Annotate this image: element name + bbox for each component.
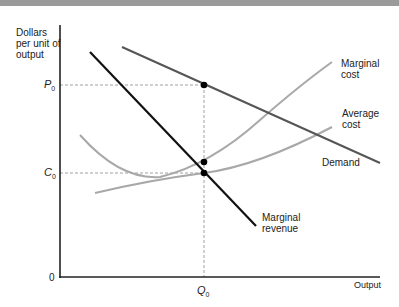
mr-label-line2: revenue: [262, 223, 300, 234]
y-label-line3: output: [16, 49, 60, 60]
c0-sub: 0: [52, 173, 56, 180]
average-cost-label: Average cost: [342, 108, 379, 130]
origin-label: 0: [49, 272, 55, 283]
y-axis-label: Dollars per unit of output: [16, 27, 60, 60]
q0-label: Q0: [197, 285, 209, 300]
q0-sub: 0: [206, 291, 210, 298]
mr-label-line1: Marginal: [262, 212, 300, 223]
price-point: [201, 82, 208, 89]
average-cost-point: [201, 170, 208, 177]
x-axis-label: Output: [354, 280, 381, 291]
y-label-line2: per unit of: [16, 38, 60, 49]
average-cost-curve: [95, 127, 332, 193]
demand-label: Demand: [322, 157, 360, 168]
p0-label: P0: [44, 79, 55, 94]
marginal-revenue-label: Marginal revenue: [262, 212, 300, 234]
c0-letter: C: [44, 166, 52, 178]
marginal-cost-label: Marginal cost: [341, 58, 379, 80]
ac-label-line2: cost: [342, 119, 379, 130]
q0-letter: Q: [197, 284, 206, 296]
y-label-line1: Dollars: [16, 27, 60, 38]
mr-mc-intersection-point: [201, 159, 208, 166]
mc-label-line2: cost: [341, 69, 379, 80]
ac-label-line1: Average: [342, 108, 379, 119]
p0-sub: 0: [51, 85, 55, 92]
marginal-revenue-curve: [90, 52, 256, 226]
c0-label: C0: [44, 167, 56, 182]
mc-label-line1: Marginal: [341, 58, 379, 69]
